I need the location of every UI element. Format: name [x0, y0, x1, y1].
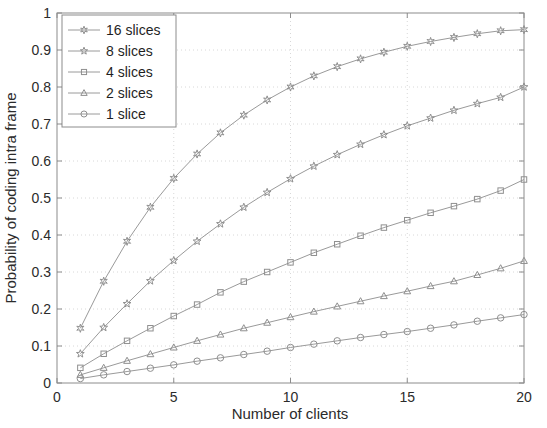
y-tick-label: 0.2 [32, 301, 52, 317]
y-tick-label: 1 [43, 5, 51, 21]
legend-item-label: 16 slices [106, 22, 160, 38]
y-axis-label: Probability of coding intra frame [2, 93, 19, 304]
legend-item-label: 2 slices [106, 85, 153, 101]
x-tick-label: 10 [283, 389, 299, 405]
legend-item-label: 8 slices [106, 43, 153, 59]
x-tick-label: 20 [516, 389, 532, 405]
chart-figure: 00.10.20.30.40.50.60.70.80.91 05101520 N… [0, 0, 547, 428]
y-tick-label: 0.9 [32, 42, 52, 58]
y-tick-label: 0.5 [32, 190, 52, 206]
legend-item-label: 4 slices [106, 64, 153, 80]
y-tick-label: 0.7 [32, 116, 52, 132]
x-tick-label: 0 [53, 389, 61, 405]
y-tick-label: 0 [43, 375, 51, 391]
x-axis-label: Number of clients [232, 405, 349, 422]
chart-legend[interactable]: 16 slices8 slices4 slices2 slices1 slice [62, 15, 176, 127]
x-tick-label: 5 [170, 389, 178, 405]
y-tick-label: 0.6 [32, 153, 52, 169]
y-tick-label: 0.8 [32, 79, 52, 95]
line-chart: 00.10.20.30.40.50.60.70.80.91 05101520 N… [0, 0, 547, 428]
y-tick-label: 0.4 [32, 227, 52, 243]
legend-item-label: 1 slice [106, 106, 146, 122]
x-tick-label: 15 [399, 389, 415, 405]
y-tick-label: 0.3 [32, 264, 52, 280]
y-tick-label: 0.1 [32, 338, 52, 354]
